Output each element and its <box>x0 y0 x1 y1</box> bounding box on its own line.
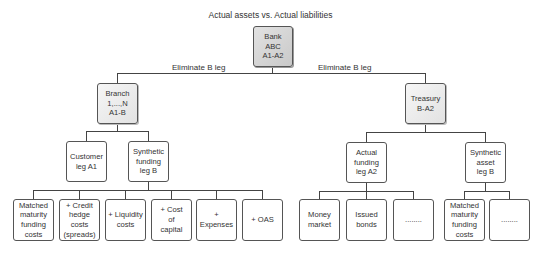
node-treasury-label: Treasury B-A2 <box>411 94 441 113</box>
connector-to-customer <box>86 131 87 141</box>
node-synthetic-funding-leg-label: Synthetic funding leg B <box>133 147 164 176</box>
connector-leaf-6 <box>262 190 263 199</box>
connector-matched-right <box>464 191 465 199</box>
connector-level1-bar <box>117 73 426 74</box>
node-treasury: Treasury B-A2 <box>405 83 446 124</box>
node-cost-of-capital-label: + Cost of capital <box>160 205 182 234</box>
connector-leaf-1 <box>33 190 34 199</box>
connector-issued-bonds <box>366 191 367 199</box>
node-branch: Branch 1,...,N A1-B <box>97 83 138 124</box>
connector-b-leaves-bar <box>464 191 510 192</box>
node-credit-hedge-costs: + Credit hedge costs (spreads) <box>59 199 100 241</box>
connector-synthetic-funding-down <box>148 182 149 190</box>
edge-label-eliminate-left: Eliminate B leg <box>172 63 225 72</box>
connector-to-treasury <box>425 73 426 83</box>
node-issued-bonds: Issued bonds <box>346 199 387 241</box>
connector-ellipsis-a2 <box>413 191 414 199</box>
node-synthetic-asset-leg-label: Synthetic asset leg B <box>470 148 501 177</box>
connector-ellipsis-b <box>509 191 510 199</box>
node-synthetic-asset-leg: Synthetic asset leg B <box>465 142 506 183</box>
node-actual-funding-leg-label: Actual funding leg A2 <box>354 148 379 177</box>
node-ellipsis-a2: ........ <box>393 199 434 241</box>
node-bank-abc-label: Bank ABC A1-A2 <box>262 32 283 61</box>
node-customer-leg-label: Customer leg A1 <box>70 152 103 171</box>
node-ellipsis-a2-label: ........ <box>405 215 422 225</box>
node-credit-hedge-costs-label: + Credit hedge costs (spreads) <box>63 201 95 240</box>
connector-leaf-4 <box>171 190 172 199</box>
node-cost-of-capital: + Cost of capital <box>151 199 192 241</box>
node-liquidity-costs: + Liquidity costs <box>105 199 146 241</box>
connector-to-synthetic-funding <box>148 131 149 141</box>
node-issued-bonds-label: Issued bonds <box>355 210 377 229</box>
node-matched-maturity-left: Matched maturity funding costs <box>13 199 54 241</box>
node-oas: + OAS <box>242 199 283 241</box>
node-matched-maturity-right-label: Matched maturity funding costs <box>450 201 479 240</box>
node-ellipsis-b-label: ........ <box>501 215 518 225</box>
connector-leaf-5 <box>216 190 217 199</box>
node-money-market-label: Money market <box>308 210 331 229</box>
connector-to-actual-funding <box>366 132 367 142</box>
node-actual-funding-leg: Actual funding leg A2 <box>346 142 387 183</box>
connector-treasury-bar <box>366 132 485 133</box>
connector-treasury-down <box>425 124 426 132</box>
connector-actual-funding-down <box>366 183 367 191</box>
node-bank-abc: Bank ABC A1-A2 <box>253 26 293 67</box>
node-branch-label: Branch 1,...,N A1-B <box>105 89 129 118</box>
node-expenses-label: + Expenses <box>198 210 235 229</box>
node-matched-maturity-left-label: Matched maturity funding costs <box>19 201 48 240</box>
node-expenses: + Expenses <box>196 199 237 241</box>
node-customer-leg: Customer leg A1 <box>66 141 107 182</box>
edge-label-eliminate-right: Eliminate B leg <box>318 63 371 72</box>
node-oas-label: + OAS <box>251 215 274 225</box>
connector-funding-leaves-bar <box>33 190 263 191</box>
node-liquidity-costs-label: + Liquidity costs <box>108 210 142 229</box>
node-matched-maturity-right: Matched maturity funding costs <box>444 199 485 241</box>
connector-leaf-2 <box>79 190 80 199</box>
node-money-market: Money market <box>299 199 340 241</box>
connector-branch-down <box>117 123 118 131</box>
connector-to-branch <box>117 73 118 83</box>
connector-synthetic-asset-down <box>485 183 486 191</box>
connector-branch-bar <box>86 131 148 132</box>
connector-leaf-3 <box>125 190 126 199</box>
connector-to-synthetic-asset <box>485 132 486 142</box>
node-synthetic-funding-leg: Synthetic funding leg B <box>128 141 169 182</box>
node-ellipsis-b: ........ <box>489 199 530 241</box>
diagram-title: Actual assets vs. Actual liabilities <box>0 10 541 20</box>
connector-money-market <box>319 191 320 199</box>
